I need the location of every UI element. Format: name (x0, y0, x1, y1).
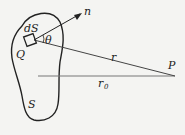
label-q: Q (16, 48, 25, 61)
label-n: n (84, 5, 91, 18)
line-r (34, 40, 175, 76)
diagram-canvas: dS n θ Q r P r 0 S (0, 0, 185, 135)
label-ds: dS (24, 22, 39, 35)
arrowhead-icon (74, 13, 82, 20)
label-theta: θ (45, 34, 52, 47)
label-r0-subscript: 0 (104, 83, 109, 91)
label-r: r (111, 51, 117, 64)
label-s: S (28, 98, 36, 111)
angle-arc-theta (43, 35, 44, 43)
label-p: P (167, 59, 176, 72)
